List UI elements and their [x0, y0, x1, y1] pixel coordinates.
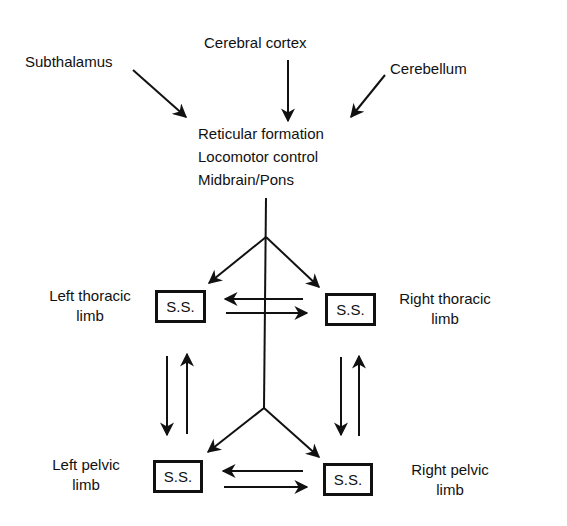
locomotor-control-label: Locomotor control	[198, 147, 318, 167]
branch-arrow-right-pelvic	[264, 408, 319, 457]
subthalamus-label: Subthalamus	[25, 52, 113, 72]
cerebral-cortex-label: Cerebral cortex	[204, 33, 307, 53]
cerebellum-label: Cerebellum	[390, 59, 467, 79]
left-thoracic-ss-box: S.S.	[155, 290, 206, 323]
cerebellum-arrow	[351, 75, 385, 117]
right-pelvic-label: Right pelvic limb	[400, 460, 500, 500]
reticular-formation-label: Reticular formation	[198, 124, 324, 144]
connector-arrows	[0, 0, 567, 526]
subthalamus-arrow	[133, 70, 186, 117]
locomotor-control-diagram: Subthalamus Cerebral cortex Cerebellum R…	[0, 0, 567, 526]
left-pelvic-ss-box: S.S.	[153, 460, 203, 493]
branch-arrow-left-thoracic	[209, 237, 266, 283]
left-thoracic-label: Left thoracic limb	[30, 286, 150, 326]
left-pelvic-label: Left pelvic limb	[36, 455, 136, 495]
midbrain-pons-label: Midbrain/Pons	[198, 170, 294, 190]
descending-pathway-line	[264, 198, 266, 408]
right-pelvic-ss-box: S.S.	[323, 463, 373, 496]
branch-arrow-right-thoracic	[266, 237, 319, 287]
branch-arrow-left-pelvic	[208, 408, 264, 452]
right-thoracic-ss-box: S.S.	[325, 293, 376, 326]
right-thoracic-label: Right thoracic limb	[385, 289, 505, 329]
